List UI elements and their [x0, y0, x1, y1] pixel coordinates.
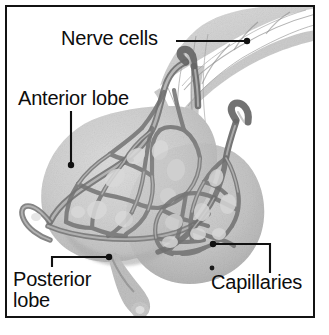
label-posterior-lobe: Posteriorlobe: [13, 269, 91, 311]
figure-root: Nerve cells Anterior lobe Posteriorlobe …: [0, 0, 329, 335]
label-anterior-lobe: Anterior lobe: [18, 88, 129, 109]
leader-anterior-lobe: [68, 111, 74, 168]
leader-capillaries: [210, 241, 270, 273]
label-nerve-cells: Nerve cells: [61, 28, 158, 49]
ink-speck: [210, 266, 215, 271]
label-capillaries: Capillaries: [211, 272, 302, 293]
leader-nerve-cells: [176, 38, 250, 44]
leader-posterior-lobe: [52, 254, 112, 267]
label-posterior-lobe-line1: Posterior: [13, 268, 91, 290]
label-posterior-lobe-line2: lobe: [13, 289, 50, 311]
